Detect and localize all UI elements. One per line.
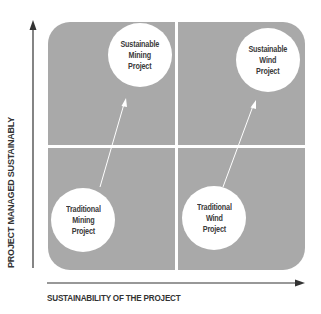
node-traditional-mining: Traditional Mining Project xyxy=(51,188,115,252)
wind-transition-arrow xyxy=(223,106,253,187)
quadrant-diagram: Sustainable Mining Project Sustainable W… xyxy=(0,0,321,314)
node-label: Sustainable Mining Project xyxy=(121,39,160,72)
mining-transition-arrow xyxy=(100,104,124,187)
mining-arrowhead-icon xyxy=(122,98,128,107)
y-axis-arrowhead-icon xyxy=(30,20,37,30)
y-axis-label: PROJECT MANAGED SUSTAINABLY xyxy=(6,117,16,268)
node-label: Traditional Mining Project xyxy=(66,204,101,237)
node-label: Sustainable Wind Project xyxy=(249,44,288,77)
wind-arrowhead-icon xyxy=(251,100,257,109)
x-axis-arrowhead-icon xyxy=(295,280,305,287)
node-label: Traditional Wind Project xyxy=(197,202,232,235)
node-sustainable-mining: Sustainable Mining Project xyxy=(108,23,172,87)
node-traditional-wind: Traditional Wind Project xyxy=(182,186,246,250)
node-sustainable-wind: Sustainable Wind Project xyxy=(236,28,300,92)
x-axis-label: SUSTAINABILITY OF THE PROJECT xyxy=(47,293,181,303)
